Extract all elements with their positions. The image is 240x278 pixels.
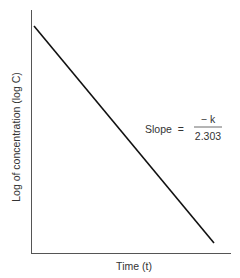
x-axis-label: Time (t) — [116, 260, 152, 272]
slope-denominator: 2.303 — [195, 130, 221, 142]
data-line-log-c — [34, 26, 214, 243]
chart-canvas: Log of concentration (log C) Time (t) Sl… — [0, 0, 240, 278]
slope-numerator: − k — [201, 113, 216, 125]
slope-annotation: Slope = − k 2.303 — [145, 113, 222, 142]
slope-prefix: Slope = — [145, 123, 184, 135]
y-axis-label: Log of concentration (log C) — [10, 72, 22, 202]
